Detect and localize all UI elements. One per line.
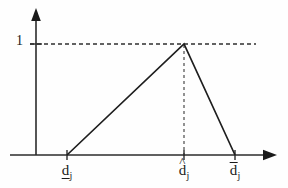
figure-container: 1 dj dj dj — [0, 0, 288, 188]
x-axis-tick-label-d-hat: dj — [179, 163, 190, 181]
d-upper-subscript: j — [238, 170, 241, 181]
membership-function-curve — [67, 44, 235, 155]
y-axis-arrow-icon — [31, 8, 41, 21]
x-axis-arrow-icon — [263, 150, 277, 160]
membership-function-plot — [0, 0, 288, 188]
x-axis-tick-label-d-lower: dj — [62, 163, 73, 181]
y-axis-tick-label-1: 1 — [16, 34, 23, 48]
d-lower-subscript: j — [70, 170, 73, 181]
d-hat-base: d — [179, 163, 187, 178]
d-hat-subscript: j — [187, 170, 190, 181]
x-axis-tick-label-d-upper: dj — [230, 163, 241, 181]
d-upper-base: d — [230, 163, 238, 178]
d-lower-base: d — [62, 163, 70, 178]
